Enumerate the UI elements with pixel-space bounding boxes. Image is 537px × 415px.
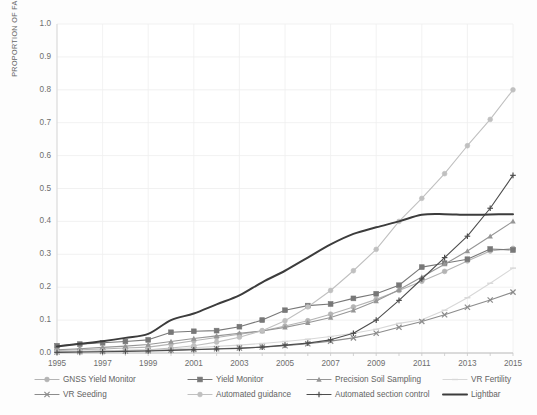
legend-item-automated-guidance[interactable]: Automated guidance <box>187 389 291 400</box>
legend-marker-icon <box>34 389 60 400</box>
data-point-square <box>511 248 516 253</box>
data-point-circle <box>45 377 50 382</box>
legend-item-vr-seeding[interactable]: VR Seeding <box>34 389 107 400</box>
data-point-circle <box>442 171 447 176</box>
legend-item-lightbar[interactable]: Lightbar <box>442 389 501 400</box>
legend-marker-icon <box>306 374 332 385</box>
legend-marker-icon <box>187 389 213 400</box>
data-point-circle <box>488 117 493 122</box>
data-point-square <box>397 283 402 288</box>
legend-marker-icon <box>187 374 213 385</box>
data-point-circle <box>260 328 265 333</box>
chart-legend: GNSS Yield MonitorYield MonitorPrecision… <box>34 374 534 410</box>
legend-label: Precision Soil Sampling <box>335 375 421 384</box>
legend-label: Automated section control <box>335 390 430 399</box>
data-point-square <box>237 324 242 329</box>
legend-item-yield-monitor[interactable]: Yield Monitor <box>187 374 263 385</box>
legend-item-automated-section-control[interactable]: Automated section control <box>306 389 430 400</box>
legend-marker-icon <box>306 389 332 400</box>
data-point-circle <box>305 305 310 310</box>
data-point-plus <box>316 392 322 398</box>
data-point-square <box>351 296 356 301</box>
legend-label: Automated guidance <box>216 390 291 399</box>
legend-item-precision-soil-sampling[interactable]: Precision Soil Sampling <box>306 374 421 385</box>
data-point-circle <box>328 288 333 293</box>
data-point-circle <box>214 340 219 345</box>
data-point-square <box>283 308 288 313</box>
data-point-circle <box>374 247 379 252</box>
data-point-square <box>169 330 174 335</box>
legend-label: VR Fertility <box>471 375 511 384</box>
data-point-circle <box>419 196 424 201</box>
legend-label: Yield Monitor <box>216 375 263 384</box>
data-point-square <box>488 247 493 252</box>
legend-label: VR Seeding <box>63 390 107 399</box>
legend-marker-icon <box>34 374 60 385</box>
legend-marker-icon <box>442 389 468 400</box>
legend-marker-icon <box>442 374 468 385</box>
legend-item-vr-fertility[interactable]: VR Fertility <box>442 374 511 385</box>
plot-area <box>0 0 537 415</box>
data-point-circle <box>351 268 356 273</box>
legend-item-gnss-yield-monitor[interactable]: GNSS Yield Monitor <box>34 374 136 385</box>
data-point-circle <box>283 318 288 323</box>
data-point-square <box>260 318 265 323</box>
line-chart: PROPORTION OF FARMS 0.00.10.20.30.40.50.… <box>0 0 537 415</box>
data-point-circle <box>198 392 203 397</box>
data-point-square <box>146 337 151 342</box>
data-point-circle <box>465 143 470 148</box>
data-point-circle <box>237 335 242 340</box>
data-point-square <box>198 377 203 382</box>
legend-row: VR SeedingAutomated guidanceAutomated se… <box>34 389 534 403</box>
data-point-square <box>465 257 470 262</box>
data-point-square <box>328 302 333 307</box>
data-point-square <box>419 265 424 270</box>
data-point-square <box>191 329 196 334</box>
data-point-square <box>214 328 219 333</box>
legend-row: GNSS Yield MonitorYield MonitorPrecision… <box>34 374 534 388</box>
legend-label: GNSS Yield Monitor <box>63 375 136 384</box>
data-point-circle <box>442 269 447 274</box>
data-point-circle <box>511 87 516 92</box>
legend-label: Lightbar <box>471 390 501 399</box>
data-point-square <box>374 291 379 296</box>
data-point-square <box>123 339 128 344</box>
